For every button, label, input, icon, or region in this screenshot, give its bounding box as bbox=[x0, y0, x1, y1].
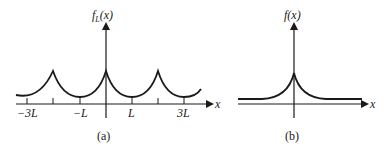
panel-a-x-label: x bbox=[215, 97, 220, 112]
tick-label-minus-L: −L bbox=[73, 106, 88, 121]
figure-canvas bbox=[0, 0, 384, 153]
panel-b-plot bbox=[238, 24, 367, 118]
panel-a-caption: (a) bbox=[97, 129, 110, 144]
panel-a-y-label: fL(x) bbox=[92, 8, 113, 24]
tick-label-L: L bbox=[128, 106, 135, 121]
y-label-argument: (x) bbox=[100, 8, 113, 22]
tick-label-3L: 3L bbox=[177, 106, 190, 121]
panel-b-x-label: x bbox=[370, 97, 375, 112]
panel-b-caption: (b) bbox=[285, 129, 299, 144]
tick-label-minus-3L: −3L bbox=[17, 106, 38, 121]
single-cusp-curve bbox=[238, 73, 362, 99]
panel-a-plot bbox=[16, 24, 212, 118]
panel-b-y-label: f(x) bbox=[284, 8, 301, 23]
periodic-cusp-curve bbox=[16, 71, 201, 97]
